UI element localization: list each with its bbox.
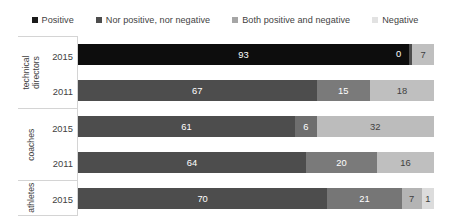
- bar-value-both-positive-and-negative: 7: [409, 194, 414, 204]
- legend-label-positive: Positive: [42, 15, 74, 25]
- bar-value-both-positive-and-negative: 32: [370, 122, 380, 132]
- bar-row-technical-directors-2011[interactable]: 67 15 18: [78, 80, 434, 101]
- legend-swatch-positive: [32, 17, 38, 23]
- bar-segment-both-positive-and-negative[interactable]: 32: [317, 116, 434, 137]
- bar-segment-positive[interactable]: 64: [78, 152, 306, 173]
- axis-categories-technical-directors: 2015 2011: [41, 37, 73, 108]
- bar-value-nor-positive-nor-negative: 15: [338, 86, 348, 96]
- bar-row-athletes-2015[interactable]: 70 21 7 1: [78, 188, 434, 209]
- bar-value-positive: 70: [197, 194, 207, 204]
- bar-segment-negative[interactable]: 1: [422, 188, 434, 209]
- legend-item-nor-positive-nor-negative[interactable]: Nor positive, nor negative: [96, 15, 210, 25]
- bar-value-nor-positive-nor-negative: 21: [359, 194, 369, 204]
- bar-value-both-positive-and-negative: 16: [400, 158, 410, 168]
- bar-value-nor-positive-nor-negative: 20: [336, 158, 346, 168]
- legend-label-both-positive-and-negative: Both positive and negative: [242, 15, 350, 25]
- bar-segment-both-positive-and-negative[interactable]: 7: [402, 188, 422, 209]
- bar-segment-positive[interactable]: 67: [78, 80, 317, 101]
- chart-legend: Positive Nor positive, nor negative Both…: [0, 10, 450, 30]
- axis-categories-coaches: 2015 2011: [41, 109, 73, 180]
- bar-row-coaches-2015[interactable]: 61 6 32: [78, 116, 434, 137]
- bar-value-positive: 61: [181, 122, 191, 132]
- bar-row-technical-directors-2015[interactable]: 93 0 7: [78, 44, 434, 65]
- axis-category-td-2011: 2011: [41, 86, 73, 97]
- bar-segment-nor-positive-nor-negative[interactable]: 20: [306, 152, 377, 173]
- legend-label-nor-positive-nor-negative: Nor positive, nor negative: [106, 15, 210, 25]
- bar-value-positive: 64: [187, 158, 197, 168]
- bar-segment-nor-positive-nor-negative[interactable]: 15: [317, 80, 370, 101]
- legend-item-positive[interactable]: Positive: [32, 15, 74, 25]
- bar-segment-both-positive-and-negative[interactable]: 7: [412, 44, 434, 65]
- axis-category-td-2015: 2015: [41, 51, 73, 62]
- bar-segment-both-positive-and-negative[interactable]: 18: [370, 80, 434, 101]
- bar-value-nor-positive-nor-negative: 6: [303, 122, 308, 132]
- bars-container: 93 0 7 0 67 15 18: [78, 36, 434, 216]
- axis-category-co-2015: 2015: [41, 123, 73, 134]
- bar-value-positive: 93: [238, 50, 248, 60]
- axis-group-coaches: coaches 2015 2011: [18, 108, 78, 180]
- legend-swatch-both-positive-and-negative: [232, 17, 238, 23]
- category-axis: technical directors 2015 2011 coaches 20…: [18, 36, 78, 216]
- bar-row-coaches-2011[interactable]: 64 20 16: [78, 152, 434, 173]
- axis-group-label-athletes: athletes: [21, 181, 43, 215]
- bar-value-positive: 67: [192, 86, 202, 96]
- legend-label-negative: Negative: [382, 15, 418, 25]
- legend-item-both-positive-and-negative[interactable]: Both positive and negative: [232, 15, 350, 25]
- legend-swatch-negative: [372, 17, 378, 23]
- bar-value-both-positive-and-negative: 7: [421, 50, 426, 60]
- axis-group-label-technical-directors: technical directors: [21, 37, 43, 108]
- bar-value-both-positive-and-negative: 18: [397, 86, 407, 96]
- bar-segment-positive[interactable]: 70: [78, 188, 327, 209]
- bar-segment-positive[interactable]: 93: [78, 44, 409, 65]
- legend-swatch-nor-positive-nor-negative: [96, 17, 102, 23]
- plot-area: technical directors 2015 2011 coaches 20…: [18, 36, 434, 216]
- axis-category-at-2015: 2015: [41, 194, 73, 205]
- axis-category-co-2011: 2011: [41, 158, 73, 169]
- bar-segment-both-positive-and-negative[interactable]: 16: [377, 152, 434, 173]
- axis-categories-athletes: 2015: [41, 181, 73, 215]
- axis-group-technical-directors: technical directors 2015 2011: [18, 36, 78, 108]
- bar-segment-nor-positive-nor-negative[interactable]: 21: [327, 188, 402, 209]
- bar-value-negative: 1: [425, 194, 430, 204]
- bar-value-label-td2015-neutral: 0: [396, 49, 401, 59]
- stacked-bar-chart: Positive Nor positive, nor negative Both…: [0, 0, 450, 224]
- bar-segment-nor-positive-nor-negative[interactable]: 6: [295, 116, 316, 137]
- legend-item-negative[interactable]: Negative: [372, 15, 418, 25]
- axis-group-athletes: athletes 2015: [18, 180, 78, 216]
- bar-segment-positive[interactable]: 61: [78, 116, 295, 137]
- axis-group-label-coaches: coaches: [21, 109, 43, 180]
